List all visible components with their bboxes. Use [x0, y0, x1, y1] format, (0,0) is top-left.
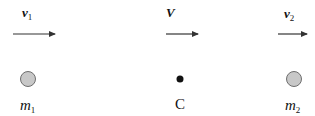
velocity-v2: v2	[278, 6, 307, 34]
v1-label: v1	[22, 5, 32, 22]
center-of-mass-dot-icon	[177, 76, 184, 83]
mass-m2-circle-icon	[287, 72, 302, 87]
mass-m1-circle-icon	[21, 72, 36, 87]
v2-label: v2	[284, 6, 294, 23]
velocity-V: V	[166, 5, 198, 34]
m1-label: m1	[20, 97, 35, 115]
mass-m1: m1	[20, 72, 36, 116]
center-of-mass: C	[175, 76, 185, 113]
V-label: V	[166, 5, 176, 20]
mass-m2: m2	[285, 72, 302, 116]
C-label: C	[175, 96, 185, 112]
m2-label: m2	[285, 97, 300, 115]
velocity-v1: v1	[13, 5, 55, 34]
collision-diagram: v1 V v2 m1 C m2	[0, 0, 315, 116]
